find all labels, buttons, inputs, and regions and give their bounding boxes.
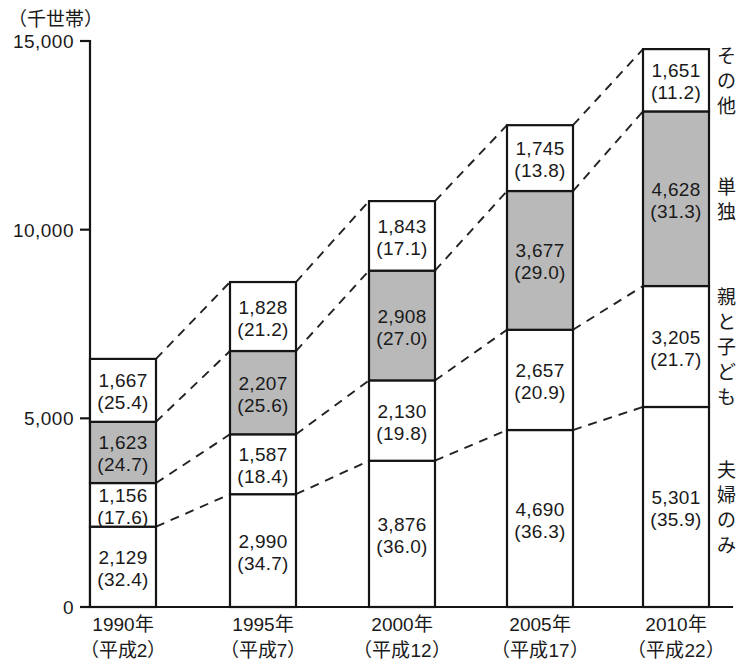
bar-segment-percent-label: (36.3): [514, 521, 565, 542]
legend-entry-char: み: [717, 535, 736, 556]
x-axis-category-label-group: 2000年（平成12）: [353, 614, 450, 661]
bar-segment-value-label: 1,843: [377, 216, 426, 237]
bar-segment-percent-label: (35.9): [650, 509, 701, 530]
x-axis-category-label-group: 1995年（平成7）: [220, 614, 307, 661]
bar-segment-percent-label: (31.3): [650, 201, 701, 222]
stacked-bar-column: 3,876(36.0)2,130(19.8)2,908(27.0)1,843(1…: [369, 201, 435, 607]
bar-segment-percent-label: (13.8): [514, 160, 565, 181]
x-axis-category-labels: 1990年（平成2）1995年（平成7）2000年（平成12）2005年（平成1…: [80, 614, 725, 661]
bar-segment-percent-label: (11.2): [651, 82, 701, 103]
household-composition-stacked-bar-chart: （千世帯） 05,00010,00015,000 2,129(32.4)1,15…: [0, 0, 751, 664]
bar-segment-value-label: 1,156: [98, 485, 147, 506]
bar-segment-percent-label: (17.6): [97, 507, 148, 528]
segment-connector: [573, 407, 643, 430]
legend-entry-char: 他: [717, 96, 736, 117]
bar-segment-percent-label: (25.6): [237, 395, 288, 416]
x-axis-category-year: 1990年: [92, 614, 153, 635]
legend-entry-char: 夫: [717, 460, 736, 481]
x-axis-category-year: 2010年: [645, 614, 706, 635]
bar-segment-percent-label: (32.4): [97, 569, 148, 590]
stacked-bar-column: 2,129(32.4)1,156(17.6)1,623(24.7)1,667(2…: [90, 359, 156, 607]
segment-connector: [296, 271, 369, 351]
segment-connector: [573, 286, 643, 330]
x-axis-category-label-group: 1990年（平成2）: [80, 614, 167, 661]
legend-entry-char: ど: [717, 362, 736, 383]
bar-segment-percent-label: (21.2): [237, 319, 288, 340]
segment-connector: [573, 49, 643, 125]
bar-segment-value-label: 4,690: [515, 499, 564, 520]
x-axis-category-era: （平成2）: [80, 640, 167, 661]
y-axis-unit-label-group: （千世帯）: [8, 9, 103, 30]
bar-segment-value-label: 1,623: [98, 432, 147, 453]
legend-entry: 親と子ども: [717, 287, 736, 408]
segment-connector: [156, 351, 230, 422]
stacked-bar-column: 2,990(34.7)1,587(18.4)2,207(25.6)1,828(2…: [230, 282, 296, 607]
segment-connector: [156, 434, 230, 483]
legend-entry-char: 婦: [717, 485, 736, 506]
x-axis-category-label-group: 2010年（平成22）: [627, 614, 724, 661]
bar-segment-percent-label: (20.9): [514, 382, 565, 403]
bar-segment-percent-label: (25.4): [97, 392, 148, 413]
bar-segment-value-label: 2,207: [238, 373, 287, 394]
y-axis: 05,00010,00015,000: [13, 31, 90, 618]
segment-connector: [156, 494, 230, 526]
stacked-bar-column: 4,690(36.3)2,657(20.9)3,677(29.0)1,745(1…: [507, 125, 573, 607]
bar-segment-value-label: 5,301: [651, 487, 700, 508]
legend-entry: その他: [717, 46, 736, 117]
legend-entry-char: と: [717, 312, 736, 333]
bar-segment-percent-label: (18.4): [237, 466, 288, 487]
legend-entry-char: そ: [717, 46, 736, 67]
segment-connector: [435, 191, 507, 271]
legend-entry-char: 独: [717, 202, 736, 223]
x-axis-category-era: （平成7）: [220, 640, 307, 661]
x-axis-category-era: （平成22）: [627, 640, 724, 661]
segment-connector: [573, 111, 643, 191]
bar-segment-percent-label: (21.7): [650, 349, 701, 370]
bar-segment-value-label: 2,908: [377, 306, 426, 327]
stacked-bar-column: 5,301(35.9)3,205(21.7)4,628(31.3)1,651(1…: [643, 49, 709, 607]
x-axis-category-year: 1995年: [232, 614, 293, 635]
bar-segment-value-label: 4,628: [651, 179, 700, 200]
stacked-bars: 2,129(32.4)1,156(17.6)1,623(24.7)1,667(2…: [90, 49, 709, 607]
legend-entry-char: 単: [717, 177, 736, 198]
legend-entry-char: の: [717, 71, 736, 92]
bar-segment-percent-label: (34.7): [237, 553, 288, 574]
y-axis-tick-label: 15,000: [13, 31, 74, 52]
bar-segment-value-label: 1,828: [238, 297, 287, 318]
bar-segment-percent-label: (19.8): [376, 423, 427, 444]
segment-connector: [435, 430, 507, 461]
x-axis-category-era: （平成17）: [491, 640, 588, 661]
y-axis-tick-label: 10,000: [13, 220, 74, 241]
bar-segment-value-label: 2,990: [238, 531, 287, 552]
bar-segment-value-label: 1,745: [515, 138, 564, 159]
bar-segment-percent-label: (29.0): [514, 262, 565, 283]
x-axis-category-label-group: 2005年（平成17）: [491, 614, 588, 661]
bar-segment-value-label: 1,667: [98, 370, 147, 391]
segment-connector: [435, 330, 507, 381]
x-axis-category-year: 2000年: [371, 614, 432, 635]
bar-segment-percent-label: (17.1): [376, 238, 427, 259]
legend-entry-char: も: [717, 387, 736, 408]
bar-segment-percent-label: (24.7): [97, 454, 148, 475]
bar-segment-value-label: 3,876: [377, 514, 426, 535]
bar-segment-value-label: 1,651: [651, 60, 700, 81]
legend: その他単独親と子ども夫婦のみ: [717, 46, 736, 556]
x-axis-category-year: 2005年: [509, 614, 570, 635]
segment-connector: [296, 461, 369, 494]
legend-entry: 夫婦のみ: [717, 460, 736, 556]
y-axis-tick-label: 0: [63, 597, 74, 618]
segment-connector: [296, 380, 369, 434]
legend-entry-char: 親: [717, 287, 736, 308]
bar-segment-value-label: 1,587: [238, 444, 287, 465]
segment-connector: [296, 201, 369, 282]
bar-segment-value-label: 2,129: [98, 547, 147, 568]
y-axis-unit-label: （千世帯）: [8, 9, 103, 30]
bar-segment-value-label: 3,205: [651, 327, 700, 348]
legend-entry-char: 子: [717, 337, 736, 358]
bar-segment-percent-label: (27.0): [376, 328, 427, 349]
bar-segment-percent-label: (36.0): [376, 536, 427, 557]
legend-entry-char: の: [717, 510, 736, 531]
segment-connector: [156, 282, 230, 359]
bar-segment-value-label: 2,130: [377, 401, 426, 422]
bar-segment-value-label: 2,657: [515, 360, 564, 381]
